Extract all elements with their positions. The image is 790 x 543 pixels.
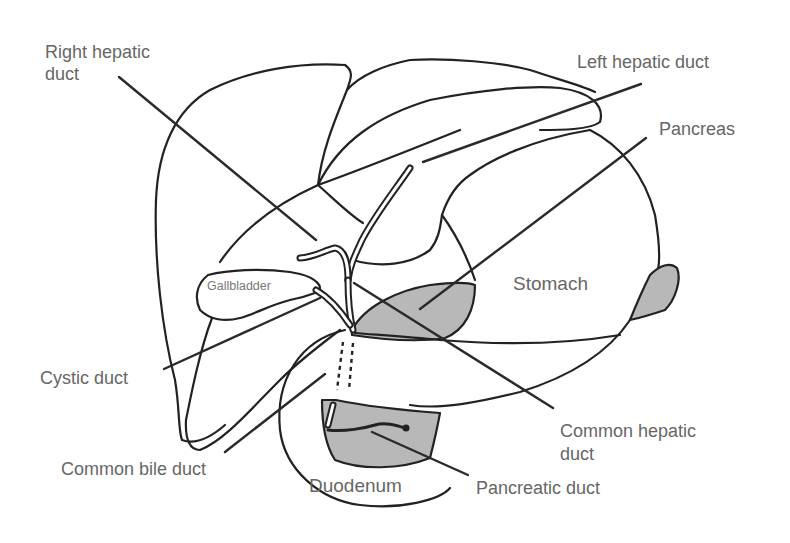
label-left-hepatic-duct: Left hepatic duct [577, 52, 709, 72]
label-common-hepatic-duct-line1: Common hepatic [560, 421, 696, 441]
label-stomach: Stomach [513, 273, 588, 294]
liver-inner-curve [220, 130, 460, 262]
anatomy-diagram: Right hepatic duct Left hepatic duct Pan… [0, 0, 790, 543]
common-bile-duct-dashed-left [337, 342, 343, 390]
gallbladder-outline [197, 270, 320, 320]
label-common-hepatic-duct-line2: duct [560, 444, 594, 464]
quadrate-line [318, 185, 363, 223]
pancreatic-duct-end [403, 425, 410, 432]
pancreas-body [352, 283, 475, 340]
label-right-hepatic-duct-line2: duct [45, 64, 79, 84]
pancreas-tail [630, 265, 679, 320]
label-pancreatic-duct: Pancreatic duct [476, 478, 600, 498]
leader-right-hepatic-duct [119, 77, 316, 240]
label-cystic-duct: Cystic duct [40, 368, 128, 388]
label-common-hepatic-duct: Common hepatic duct [560, 421, 701, 464]
common-bile-duct-dashed-right [349, 343, 353, 390]
gallbladder-neck [186, 318, 340, 450]
falciform-line [318, 90, 347, 185]
stomach-outline [410, 130, 659, 407]
leader-cystic-duct [164, 298, 320, 369]
label-pancreas: Pancreas [659, 119, 735, 139]
label-right-hepatic-duct: Right hepatic duct [45, 42, 155, 84]
label-duodenum: Duodenum [309, 475, 402, 496]
pancreas-head [322, 400, 440, 467]
label-common-bile-duct: Common bile duct [61, 459, 206, 479]
label-gallbladder: Gallbladder [207, 279, 271, 293]
label-right-hepatic-duct-line1: Right hepatic [45, 42, 150, 62]
